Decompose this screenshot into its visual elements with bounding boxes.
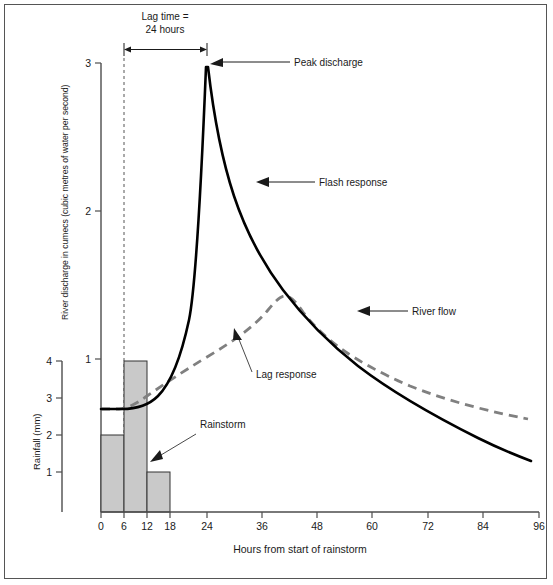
lag-response-arrowhead [233,328,242,340]
lag-time-label-line1: Lag time = [142,11,189,22]
peak-discharge-label: Peak discharge [294,57,363,68]
x-tick-label-0: 0 [98,520,104,532]
x-tick-label-96: 96 [533,520,545,532]
annotation-peak-discharge: Peak discharge [210,57,363,68]
x-tick-label-72: 72 [422,520,434,532]
lag-response-label: Lag response [256,369,317,380]
rainfall-bar-6-12 [124,361,147,512]
discharge-tick-label-2: 2 [85,205,91,217]
rainstorm-leader [156,434,196,458]
flash-response-arrowhead [256,177,269,187]
x-tick-label-36: 36 [256,520,268,532]
rainfall-bar-12-18 [147,472,170,512]
rainstorm-label: Rainstorm [200,419,246,430]
rainfall-y-axis: 4 3 2 1 Rainfall (mm) [31,355,62,512]
x-tick-label-24: 24 [201,520,213,532]
discharge-tick-label-1: 1 [85,353,91,365]
lag-time-arrowhead-right [200,47,207,53]
hydrograph-chart: Lag time = 24 hours 3 2 1 River discharg… [0,0,553,585]
rainfall-tick-label-3: 3 [46,392,52,404]
x-tick-label-18: 18 [164,520,176,532]
hydrograph-figure: Lag time = 24 hours 3 2 1 River discharg… [0,0,553,585]
peak-discharge-arrowhead [210,58,223,67]
x-axis: 0 6 12 18 24 36 48 60 72 84 96 Hours fro… [98,512,545,555]
lag-response-leader [238,337,252,372]
lag-time-annotation: Lag time = 24 hours [124,11,207,56]
river-flow-arrowhead [357,306,370,316]
lag-response-curve [101,296,528,419]
rainfall-tick-label-2: 2 [46,429,52,441]
flash-response-label: Flash response [319,177,388,188]
annotation-river-flow: River flow [357,306,457,317]
annotation-flash-response: Flash response [256,177,388,188]
rainfall-bars [101,361,170,512]
x-tick-label-48: 48 [311,520,323,532]
river-flow-label: River flow [412,306,457,317]
x-tick-label-84: 84 [477,520,489,532]
x-tick-label-6: 6 [121,520,127,532]
annotation-lag-response: Lag response [233,328,317,380]
x-axis-title: Hours from start of rainstorm [233,543,367,555]
lag-time-label-line2: 24 hours [146,24,185,35]
x-tick-label-60: 60 [366,520,378,532]
rainfall-tick-label-1: 1 [46,466,52,478]
discharge-axis-title: River discharge in cumecs (cubic metres … [60,84,70,320]
lag-time-arrowhead-left [124,47,131,53]
flash-response-curve [101,67,531,461]
rainfall-axis-title: Rainfall (mm) [31,414,42,470]
discharge-tick-label-3: 3 [85,57,91,69]
rainfall-bar-0-6 [101,435,124,512]
rainfall-tick-label-4: 4 [46,355,52,367]
x-tick-label-12: 12 [141,520,153,532]
discharge-y-axis: 3 2 1 River discharge in cumecs (cubic m… [60,57,101,512]
annotation-rainstorm: Rainstorm [150,419,246,462]
rainstorm-arrowhead [150,450,163,462]
